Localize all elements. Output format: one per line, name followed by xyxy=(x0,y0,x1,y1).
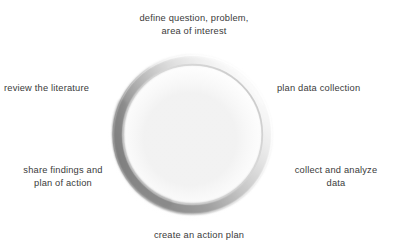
research-cycle-diagram: define question, problem, area of intere… xyxy=(0,0,397,251)
ring-outer-rim-highlight xyxy=(113,55,271,213)
ring-inner-contour xyxy=(123,65,262,204)
ring-limb-shading xyxy=(118,60,267,209)
ring-body xyxy=(118,60,267,209)
ring-vertical-shading xyxy=(118,60,267,209)
step-label-define-question: define question, problem, area of intere… xyxy=(104,12,284,37)
ring-inner-shading xyxy=(123,65,263,205)
step-label-share-findings: share findings and plan of action xyxy=(4,164,122,189)
ring-outer-contour xyxy=(113,55,272,214)
step-label-create-an-action-plan: create an action plan xyxy=(114,229,284,242)
step-label-plan-data-collection: plan data collection xyxy=(277,82,395,95)
ring-shadow xyxy=(106,55,274,223)
step-label-collect-and-analyze-data: collect and analyze data xyxy=(277,164,395,189)
step-label-review-the-literature: review the literature xyxy=(4,82,120,95)
ring-crown-highlight xyxy=(150,56,262,104)
cycle-ring-graphic xyxy=(0,0,397,251)
ring-left-shadow xyxy=(117,104,168,203)
